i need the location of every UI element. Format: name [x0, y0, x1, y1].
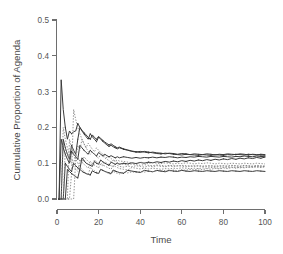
- y-tick-label: 0.0: [38, 195, 50, 204]
- data-point-marker: [90, 174, 91, 175]
- data-point-marker: [210, 155, 211, 156]
- data-point-marker: [102, 155, 103, 156]
- data-point-marker: [65, 147, 66, 148]
- data-point-marker: [71, 173, 72, 174]
- data-point-marker: [65, 154, 66, 155]
- y-tick-label: 0.2: [38, 123, 50, 132]
- data-point-marker: [102, 161, 103, 162]
- data-point-marker: [77, 123, 78, 124]
- x-tick-label: 40: [136, 218, 146, 227]
- y-tick-label: 0.1: [38, 159, 50, 168]
- data-point-marker: [223, 171, 224, 172]
- data-point-marker: [185, 161, 186, 162]
- data-point-marker: [102, 141, 103, 142]
- data-point-marker: [71, 133, 72, 134]
- data-point-marker: [160, 162, 161, 163]
- data-point-marker: [83, 133, 84, 134]
- data-point-marker: [185, 171, 186, 172]
- data-point-marker: [77, 159, 78, 160]
- data-point-marker: [108, 156, 109, 157]
- data-point-marker: [108, 146, 109, 147]
- data-point-marker: [123, 163, 124, 164]
- data-point-marker: [260, 156, 261, 157]
- data-point-marker: [235, 171, 236, 172]
- data-point-marker: [198, 156, 199, 157]
- data-point-marker: [248, 156, 249, 157]
- x-axis-title: Time: [151, 234, 172, 245]
- data-point-marker: [223, 158, 224, 159]
- chart-figure: 0.00.10.20.30.40.5 Cumulative Proportion…: [0, 0, 283, 254]
- data-point-marker: [102, 140, 103, 141]
- data-point-marker: [198, 154, 199, 155]
- data-point-marker: [235, 154, 236, 155]
- data-point-marker: [198, 159, 199, 160]
- data-point-marker: [160, 171, 161, 172]
- data-point-marker: [96, 163, 97, 164]
- data-point-marker: [160, 153, 161, 154]
- data-point-marker: [135, 152, 136, 153]
- data-point-marker: [210, 171, 211, 172]
- data-point-marker: [83, 132, 84, 133]
- data-point-marker: [223, 156, 224, 157]
- data-point-marker: [260, 154, 261, 155]
- data-point-marker: [135, 171, 136, 172]
- data-point-marker: [148, 171, 149, 172]
- y-tick-label: 0.3: [38, 88, 50, 97]
- data-point-marker: [90, 139, 91, 140]
- data-point-marker: [248, 157, 249, 158]
- data-point-marker: [260, 158, 261, 159]
- data-point-marker: [235, 156, 236, 157]
- data-point-marker: [115, 146, 116, 147]
- data-point-marker: [71, 151, 72, 152]
- data-point-marker: [96, 141, 97, 142]
- data-point-marker: [65, 198, 66, 199]
- data-point-marker: [198, 171, 199, 172]
- data-point-marker: [235, 159, 236, 160]
- data-point-marker: [123, 156, 124, 157]
- x-tick-label: 80: [219, 218, 229, 227]
- x-tick-label: 0: [55, 218, 60, 227]
- data-point-marker: [77, 177, 78, 178]
- data-point-marker: [210, 154, 211, 155]
- data-point-marker: [173, 161, 174, 162]
- data-point-marker: [115, 147, 116, 148]
- data-point-marker: [108, 165, 109, 166]
- data-point-marker: [108, 172, 109, 173]
- data-point-marker: [148, 157, 149, 158]
- data-point-marker: [77, 167, 78, 168]
- data-point-marker: [173, 153, 174, 154]
- data-point-marker: [185, 157, 186, 158]
- data-point-marker: [173, 171, 174, 172]
- data-point-marker: [96, 155, 97, 156]
- data-point-marker: [96, 172, 97, 173]
- data-point-marker: [135, 163, 136, 164]
- data-point-marker: [123, 173, 124, 174]
- data-point-marker: [248, 154, 249, 155]
- data-point-marker: [71, 171, 72, 172]
- data-point-marker: [123, 149, 124, 150]
- data-point-marker: [77, 139, 78, 140]
- data-point-marker: [260, 171, 261, 172]
- data-point-marker: [148, 152, 149, 153]
- data-point-marker: [65, 163, 66, 164]
- data-point-marker: [96, 139, 97, 140]
- data-point-marker: [198, 155, 199, 156]
- data-point-marker: [83, 172, 84, 173]
- data-point-marker: [90, 133, 91, 134]
- x-tick-label: 60: [177, 218, 187, 227]
- y-tick-label: 0.4: [38, 52, 50, 61]
- data-point-marker: [90, 150, 91, 151]
- data-point-marker: [185, 153, 186, 154]
- y-tick-label: 0.5: [38, 16, 50, 25]
- data-point-marker: [71, 145, 72, 146]
- data-point-marker: [210, 160, 211, 161]
- x-tick-label: 100: [258, 218, 272, 227]
- data-point-marker: [148, 162, 149, 163]
- data-point-marker: [223, 154, 224, 155]
- data-point-marker: [65, 127, 66, 128]
- data-point-marker: [160, 157, 161, 158]
- x-tick-label: 20: [94, 218, 104, 227]
- data-point-marker: [115, 157, 116, 158]
- line-chart: 0.00.10.20.30.40.5 Cumulative Proportion…: [0, 0, 283, 254]
- data-point-marker: [83, 150, 84, 151]
